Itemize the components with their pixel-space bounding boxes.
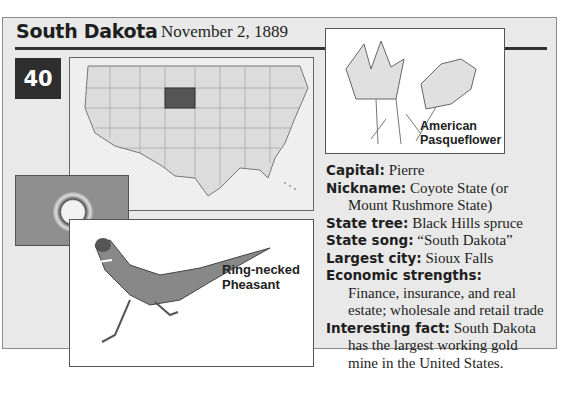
- fact-value-continued: estate; wholesale and retail trade: [326, 302, 558, 320]
- fact-value-continued: mine in the United States.: [326, 355, 558, 373]
- bird-caption-line2: Pheasant: [222, 277, 300, 292]
- fact-label: Nickname:: [326, 180, 406, 196]
- fact-value-continued: has the largest working gold: [326, 337, 558, 355]
- statehood-date: November 2, 1889: [161, 22, 288, 42]
- title-rule: [15, 47, 325, 50]
- state-order-badge: 40: [15, 58, 61, 99]
- state-bird-image: Ring-necked Pheasant: [69, 219, 314, 367]
- fact-value: Black Hills spruce: [412, 215, 523, 231]
- bird-caption-line1: Ring-necked: [222, 262, 300, 277]
- fact-label: Largest city:: [326, 250, 422, 266]
- flower-caption: American Pasqueflower: [420, 119, 501, 147]
- state-facts: Capital: Pierre Nickname: Coyote State (…: [326, 162, 558, 372]
- fact-nickname: Nickname: Coyote State (or: [326, 180, 558, 198]
- fact-state-tree: State tree: Black Hills spruce: [326, 215, 558, 233]
- fact-label: Economic strengths:: [326, 267, 482, 283]
- fact-value: Sioux Falls: [425, 250, 493, 266]
- fact-value-continued: Finance, insurance, and real: [326, 285, 558, 303]
- fact-state-song: State song: “South Dakota”: [326, 232, 558, 250]
- pheasant-icon: [70, 220, 313, 366]
- fact-value-continued: Mount Rushmore State): [326, 197, 558, 215]
- fact-value: South Dakota: [454, 320, 536, 336]
- fact-value: Pierre: [389, 162, 425, 178]
- fact-largest-city: Largest city: Sioux Falls: [326, 250, 558, 268]
- fact-interesting: Interesting fact: South Dakota: [326, 320, 558, 338]
- fact-value: Coyote State (or: [410, 180, 508, 196]
- bird-caption: Ring-necked Pheasant: [222, 262, 300, 292]
- title-rule-right: [505, 47, 547, 50]
- state-name: South Dakota: [16, 20, 158, 42]
- fact-label: Capital:: [326, 162, 385, 178]
- fact-label: State song:: [326, 232, 414, 248]
- fact-capital: Capital: Pierre: [326, 162, 558, 180]
- fact-label: State tree:: [326, 215, 408, 231]
- flower-caption-line1: American: [420, 119, 501, 133]
- fact-label: Interesting fact:: [326, 320, 450, 336]
- south-dakota-highlight: [165, 88, 195, 108]
- flower-caption-line2: Pasqueflower: [420, 133, 501, 147]
- state-flower-image: American Pasqueflower: [325, 28, 505, 154]
- fact-value: “South Dakota”: [417, 232, 512, 248]
- fact-economic-strengths: Economic strengths:: [326, 267, 558, 285]
